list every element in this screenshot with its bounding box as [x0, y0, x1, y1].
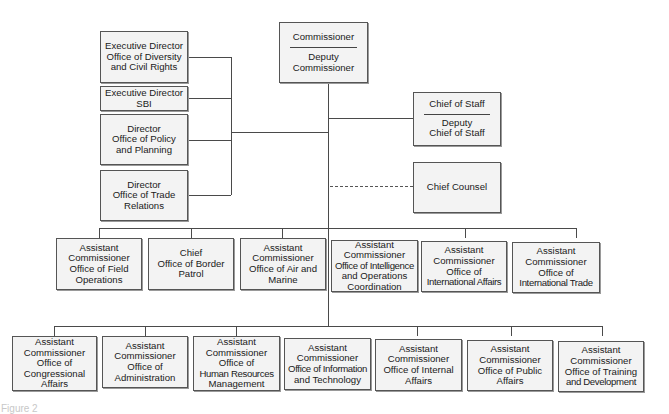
row2-drop — [54, 326, 55, 336]
box-line: Office of Air and — [249, 264, 317, 275]
row2-drop — [511, 326, 512, 336]
air-and-marine-box: Assistant Commissioner Office of Air and… — [240, 238, 326, 290]
box-line: Commissioner — [433, 256, 494, 267]
international-affairs-box: Assistant Commissioner Office of Interna… — [421, 241, 507, 292]
connector-sbi — [187, 98, 231, 99]
box-line: and Civil Rights — [111, 62, 178, 73]
row2-drop — [145, 326, 146, 336]
row1-drop — [465, 228, 466, 238]
chief-of-staff-divider — [424, 114, 490, 115]
information-technology-box: Assistant Commissioner Office of Informa… — [284, 338, 371, 390]
intelligence-operations-coordination-box: Assistant Commissioner Office of Intelli… — [331, 240, 418, 292]
administration-box: Assistant Commissioner Office of Adminis… — [102, 336, 188, 388]
training-development-box: Assistant Commissioner Office of Trainin… — [558, 341, 644, 392]
box-line: Relations — [124, 201, 164, 212]
exec-dir-sbi-box: Executive Director SBI — [100, 86, 188, 111]
row1-drop — [191, 228, 192, 238]
box-line: Coordination — [347, 282, 401, 293]
box-line: Commissioner — [525, 257, 586, 268]
row1-drop — [99, 228, 100, 238]
box-line: and Technology — [294, 375, 361, 386]
border-patrol-box: Chief Office of Border Patrol — [148, 238, 234, 290]
row1-drop — [282, 228, 283, 238]
box-line: and Development — [566, 377, 636, 388]
human-resources-management-box: Assistant Commissioner Office of Human R… — [193, 336, 280, 391]
left-staff-bracket-vertical — [231, 57, 232, 195]
public-affairs-box: Assistant Commissioner Office of Public … — [467, 340, 553, 391]
box-line: Commissioner — [570, 356, 631, 367]
congressional-affairs-box: Assistant Commissioner Office of Congres… — [12, 336, 97, 391]
connector-trade-relations — [187, 195, 231, 196]
box-line: Office of Internal — [383, 365, 453, 376]
field-operations-box: Assistant Commissioner Office of Field O… — [56, 238, 142, 290]
box-line: Office of Information — [288, 364, 367, 375]
deputy-commissioner-line2: Commissioner — [293, 63, 354, 74]
commissioner-title: Commissioner — [293, 32, 354, 43]
box-line: Office of Field — [69, 264, 128, 275]
box-line: International Trade — [519, 278, 592, 289]
internal-affairs-box: Assistant Commissioner Office of Interna… — [375, 339, 462, 391]
chief-counsel-title: Chief Counsel — [427, 182, 487, 193]
commissioner-box: Commissioner Deputy Commissioner — [279, 22, 368, 83]
box-line: Management — [209, 379, 265, 390]
director-policy-planning-box: Director Office of Policy and Planning — [100, 114, 188, 165]
box-line: Operations — [76, 275, 123, 286]
box-line: Office of — [127, 362, 163, 373]
box-line: and Planning — [116, 145, 172, 156]
chief-of-staff-box: Chief of Staff Deputy Chief of Staff — [413, 92, 501, 146]
box-line: Marine — [268, 275, 297, 286]
connector-diversity — [187, 57, 231, 58]
row2-drop — [417, 326, 418, 336]
box-line: Administration — [115, 373, 176, 384]
row1-bus-line — [99, 228, 577, 229]
box-line: International Affairs — [427, 277, 502, 288]
box-line: Affairs — [41, 379, 68, 390]
connector-policy — [187, 140, 231, 141]
international-trade-box: Assistant Commissioner Office of Interna… — [512, 242, 600, 293]
connector-chief-of-staff — [328, 118, 413, 119]
deputy-chief-of-staff-line2: Chief of Staff — [429, 128, 484, 139]
row2-bus-line — [54, 326, 603, 327]
left-staff-connector — [231, 132, 328, 133]
row2-drop — [236, 326, 237, 336]
chief-counsel-box: Chief Counsel — [413, 162, 501, 213]
box-line: Affairs — [496, 376, 523, 387]
row1-drop — [576, 228, 577, 238]
dashed-connector-chief-counsel — [330, 186, 413, 187]
commissioner-divider — [290, 47, 356, 48]
box-line: Executive Director — [105, 88, 183, 99]
chief-of-staff-title: Chief of Staff — [429, 99, 484, 110]
box-line: Affairs — [405, 376, 432, 387]
director-trade-relations-box: Director Office of Trade Relations — [100, 170, 188, 221]
box-line: Patrol — [178, 269, 203, 280]
box-line: Commissioner — [479, 355, 540, 366]
box-line: SBI — [136, 99, 151, 110]
exec-dir-diversity-civil-rights-box: Executive Director Office of Diversity a… — [100, 31, 188, 83]
row2-drop — [602, 326, 603, 336]
figure-caption: Figure 2 — [1, 403, 38, 414]
